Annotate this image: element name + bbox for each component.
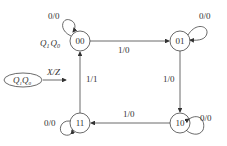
state-00: 00: [70, 31, 90, 51]
label-01-10: 1/0: [163, 74, 175, 84]
label-00-00: 0/0: [48, 11, 60, 21]
state-diagram: 00 01 10 11 1/0 1/0 1/0 1/1 0/0 0/0 0/0 …: [0, 0, 227, 146]
state-10-label: 10: [176, 118, 186, 128]
state-00-label: 00: [76, 36, 86, 46]
state-11-label: 11: [76, 118, 85, 128]
state-variable-label: Q1Q0: [40, 38, 60, 49]
state-11: 11: [70, 113, 90, 133]
label-11-00: 1/1: [86, 74, 98, 84]
state-10: 10: [170, 113, 190, 133]
svg-text:Q1Q0: Q1Q0: [40, 38, 60, 49]
state-01: 01: [170, 31, 190, 51]
self-loop-01: [188, 26, 207, 40]
legend-arrow-label: X/Z: [46, 67, 61, 77]
label-00-01: 1/0: [118, 45, 130, 55]
label-11-11: 0/0: [44, 118, 56, 128]
state-01-label: 01: [176, 36, 185, 46]
label-10-10: 0/0: [200, 113, 212, 123]
label-01-01: 0/0: [199, 11, 211, 21]
legend: Q1Q0 X/Z: [4, 67, 66, 87]
label-10-11: 1/0: [123, 109, 135, 119]
